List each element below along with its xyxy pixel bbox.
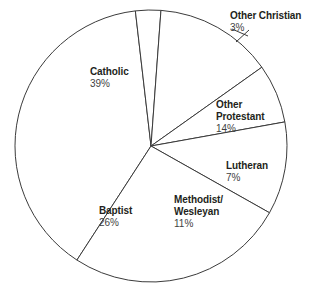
pie-label-lutheran-name: Lutheran	[226, 160, 268, 172]
pie-label-methodist-wesleyan-value: 11%	[174, 218, 223, 230]
pie-label-other-christian-name: Other Christian	[230, 10, 301, 22]
pie-label-catholic-value: 39%	[90, 78, 129, 90]
pie-label-other-protestant-value: 14%	[216, 123, 264, 135]
pie-label-other-protestant-name-line1: Other	[216, 99, 264, 111]
pie-label-other-christian-value: 3%	[230, 22, 301, 34]
pie-chart-canvas	[0, 0, 327, 292]
pie-slices	[15, 10, 287, 282]
pie-label-baptist-value: 26%	[99, 217, 132, 229]
pie-label-lutheran: Lutheran 7%	[226, 160, 268, 184]
pie-label-catholic: Catholic 39%	[90, 66, 129, 90]
pie-label-catholic-name: Catholic	[90, 66, 129, 78]
pie-label-methodist-wesleyan-name-line2: Wesleyan	[174, 206, 223, 218]
pie-label-methodist-wesleyan: Methodist/ Wesleyan 11%	[174, 194, 223, 229]
pie-chart: Catholic 39% Other Christian 3% Other Pr…	[0, 0, 327, 292]
pie-label-baptist: Baptist 26%	[99, 205, 132, 229]
pie-label-other-protestant: Other Protestant 14%	[216, 99, 264, 134]
pie-label-baptist-name: Baptist	[99, 205, 132, 217]
pie-label-lutheran-value: 7%	[226, 172, 268, 184]
pie-label-other-christian: Other Christian 3%	[230, 10, 301, 34]
pie-label-other-protestant-name-line2: Protestant	[216, 111, 264, 123]
pie-label-methodist-wesleyan-name-line1: Methodist/	[174, 194, 223, 206]
